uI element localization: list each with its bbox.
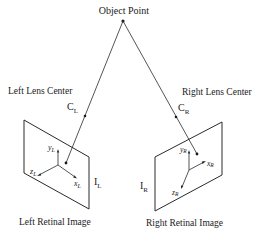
right-image-symbol: IR [140, 180, 148, 194]
left-lens-center-label: Left Lens Center [8, 86, 73, 96]
right-axis-y-label: yR [179, 145, 187, 154]
right-axis-z-label: zR [171, 188, 179, 197]
stereo-diagram: Object Point Left Lens Center Right Lens… [0, 0, 265, 233]
left-ray [66, 21, 123, 163]
left-retinal-plane [24, 120, 89, 209]
right-axis-x-label: xR [206, 159, 214, 168]
right-axes [181, 150, 206, 189]
right-lens-center-dot [175, 116, 178, 119]
left-axes [37, 149, 77, 179]
left-image-point [65, 162, 68, 165]
left-axis-y-label: yL [47, 143, 56, 153]
left-lens-center-dot [84, 115, 87, 118]
left-axis-z-label: zL [29, 167, 37, 177]
right-lens-center-label: Right Lens Center [182, 87, 252, 97]
right-retinal-image-label: Right Retinal Image [146, 218, 223, 228]
left-lens-symbol: CL [67, 101, 78, 115]
object-point-label: Object Point [99, 5, 149, 16]
right-lens-symbol: CR [178, 102, 190, 116]
left-axis-x-label: xL [73, 179, 82, 189]
right-image-point [196, 153, 199, 156]
left-retinal-image-label: Left Retinal Image [19, 217, 91, 227]
left-image-symbol: IL [94, 176, 102, 190]
